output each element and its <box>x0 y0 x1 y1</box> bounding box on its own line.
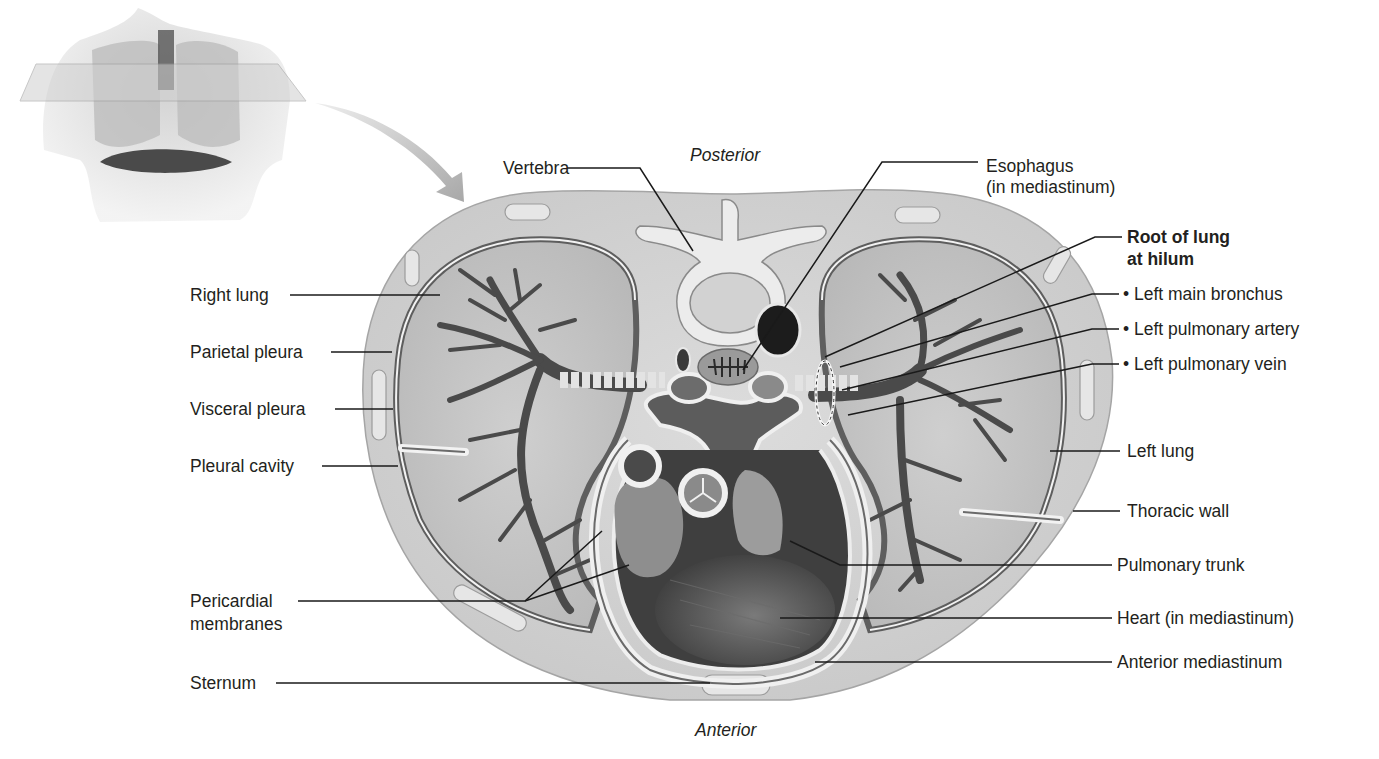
curved-arrow-icon <box>315 103 464 202</box>
label-heart: Heart (in mediastinum) <box>1117 608 1294 629</box>
label-root-of-lung-line1: Root of lung <box>1127 227 1230 248</box>
label-thoracic-wall: Thoracic wall <box>1127 501 1229 522</box>
label-left-lung: Left lung <box>1127 441 1194 462</box>
label-left-pulmonary-vein: • Left pulmonary vein <box>1123 354 1287 375</box>
label-right-lung: Right lung <box>190 285 269 306</box>
thorax-cross-section-diagram <box>0 0 1379 759</box>
esophagus <box>698 349 758 385</box>
label-left-main-bronchus: • Left main bronchus <box>1123 284 1283 305</box>
label-root-of-lung-line2: at hilum <box>1127 249 1194 270</box>
label-esophagus-line1: Esophagus <box>986 156 1074 177</box>
label-pleural-cavity: Pleural cavity <box>190 456 294 477</box>
label-left-pulmonary-artery: • Left pulmonary artery <box>1123 319 1299 340</box>
label-pericardial-line1: Pericardial <box>190 591 273 612</box>
label-parietal-pleura: Parietal pleura <box>190 342 303 363</box>
label-pulmonary-trunk: Pulmonary trunk <box>1117 555 1244 576</box>
label-vertebra: Vertebra <box>503 158 569 179</box>
torso-section-plane-icon <box>20 8 306 222</box>
label-visceral-pleura: Visceral pleura <box>190 399 305 420</box>
label-sternum: Sternum <box>190 673 256 694</box>
orientation-anterior: Anterior <box>695 720 756 741</box>
label-esophagus-line2: (in mediastinum) <box>986 177 1115 198</box>
orientation-posterior: Posterior <box>690 145 760 166</box>
label-anterior-mediastinum: Anterior mediastinum <box>1117 652 1282 673</box>
label-pericardial-line2: membranes <box>190 614 282 635</box>
